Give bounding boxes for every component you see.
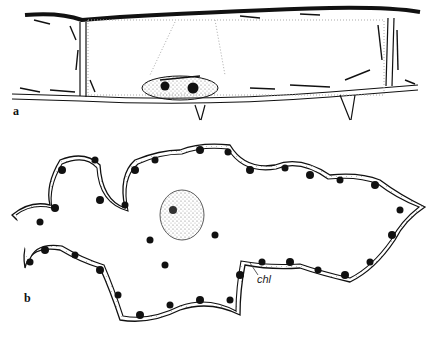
figure — [0, 0, 441, 347]
panel-label-a: a — [13, 104, 19, 119]
panel-b-drawing — [12, 144, 425, 321]
cell-diagram-svg — [0, 0, 441, 347]
panel-label-b: b — [24, 291, 31, 306]
panel-a-drawing — [12, 8, 420, 120]
chloroplast-annotation: chl — [257, 273, 271, 285]
